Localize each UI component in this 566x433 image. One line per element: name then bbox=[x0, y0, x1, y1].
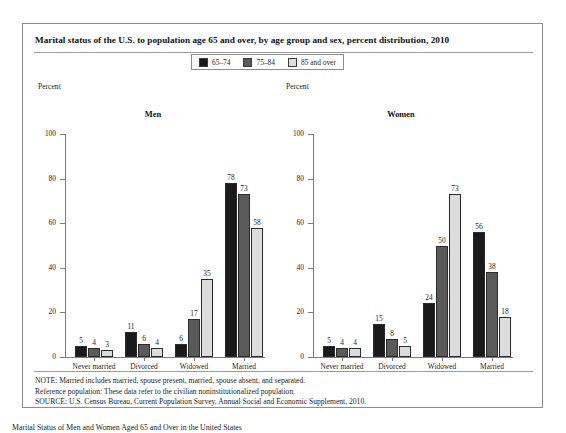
bar-value-label: 5 bbox=[403, 336, 407, 345]
bar[interactable]: 6 bbox=[138, 344, 150, 357]
y-axis-title: Percent bbox=[286, 82, 309, 91]
x-axis-tick bbox=[194, 357, 195, 361]
x-axis-tick bbox=[144, 357, 145, 361]
bar-group-bars: 543 bbox=[72, 134, 116, 357]
bar[interactable]: 58 bbox=[251, 228, 263, 357]
bar[interactable]: 38 bbox=[486, 272, 498, 357]
bar-value-label: 11 bbox=[127, 322, 134, 331]
bar-group: 245073 bbox=[420, 134, 464, 357]
bar[interactable]: 5 bbox=[399, 346, 411, 357]
panel-title: Men bbox=[33, 110, 273, 119]
y-axis-tick-label: 80 bbox=[281, 174, 304, 183]
x-axis-line bbox=[313, 357, 513, 358]
bar-group-bars: 563818 bbox=[470, 134, 514, 357]
y-axis-tick bbox=[308, 357, 314, 358]
bar[interactable]: 17 bbox=[188, 319, 200, 357]
bar-value-label: 78 bbox=[227, 173, 234, 182]
bar-value-label: 6 bbox=[179, 334, 183, 343]
bar-value-label: 56 bbox=[475, 222, 482, 231]
bar-value-label: 38 bbox=[488, 262, 495, 271]
bar-value-label: 50 bbox=[438, 236, 445, 245]
bar[interactable]: 50 bbox=[436, 246, 448, 358]
legend-item-label: 75–84 bbox=[256, 58, 274, 67]
bar-value-label: 4 bbox=[155, 338, 159, 347]
bar-value-label: 5 bbox=[327, 336, 331, 345]
bar[interactable]: 73 bbox=[238, 194, 250, 357]
title-divider bbox=[34, 52, 533, 53]
legend-item-label: 65–74 bbox=[212, 58, 230, 67]
bar-group-bars: 245073 bbox=[420, 134, 464, 357]
bar-group: 787358 bbox=[222, 134, 266, 357]
bar-group-bars: 1164 bbox=[122, 134, 166, 357]
bar[interactable]: 15 bbox=[373, 324, 385, 357]
chart-legend: 65–7475–8485 and over bbox=[191, 54, 344, 70]
y-axis-title: Percent bbox=[38, 82, 61, 91]
bar[interactable]: 4 bbox=[151, 348, 163, 357]
bar[interactable]: 78 bbox=[225, 183, 237, 357]
bar[interactable]: 8 bbox=[386, 339, 398, 357]
bar[interactable]: 18 bbox=[499, 317, 511, 357]
plot-area: 543116461735787358 bbox=[66, 134, 265, 357]
bar-value-label: 17 bbox=[190, 309, 197, 318]
legend-item-label: 85 and over bbox=[301, 58, 336, 67]
y-axis-tick-label: 40 bbox=[281, 263, 304, 272]
bar[interactable]: 11 bbox=[125, 332, 137, 357]
x-axis-tick bbox=[94, 357, 95, 361]
bar-value-label: 6 bbox=[142, 334, 146, 343]
bar-group-bars: 544 bbox=[320, 134, 364, 357]
y-axis-tick-label: 20 bbox=[281, 307, 304, 316]
bar-value-label: 24 bbox=[425, 293, 432, 302]
x-axis-tick bbox=[442, 357, 443, 361]
panel-men: PercentMen020406080100543116461735787358… bbox=[33, 82, 273, 362]
bar-value-label: 4 bbox=[353, 338, 357, 347]
bar-group-bars: 787358 bbox=[222, 134, 266, 357]
y-axis-tick-label: 100 bbox=[33, 129, 56, 138]
bar-value-label: 4 bbox=[340, 338, 344, 347]
footnote-divider bbox=[34, 371, 533, 372]
x-axis-line bbox=[65, 357, 265, 358]
bar-value-label: 73 bbox=[240, 184, 247, 193]
bar-value-label: 73 bbox=[451, 184, 458, 193]
bar-value-label: 5 bbox=[79, 336, 83, 345]
bar[interactable]: 4 bbox=[336, 348, 348, 357]
y-axis-tick-label: 40 bbox=[33, 263, 56, 272]
legend-swatch-icon bbox=[243, 58, 252, 67]
y-axis-tick-label: 0 bbox=[33, 352, 56, 361]
bar-value-label: 18 bbox=[501, 307, 508, 316]
bar-value-label: 8 bbox=[390, 329, 394, 338]
bar[interactable]: 5 bbox=[75, 346, 87, 357]
bar[interactable]: 3 bbox=[101, 350, 113, 357]
bar-group: 544 bbox=[320, 134, 364, 357]
x-axis-tick bbox=[244, 357, 245, 361]
y-axis-tick-label: 80 bbox=[33, 174, 56, 183]
bar[interactable]: 4 bbox=[88, 348, 100, 357]
bar-group: 61735 bbox=[172, 134, 216, 357]
bar-group: 543 bbox=[72, 134, 116, 357]
bar[interactable]: 56 bbox=[473, 232, 485, 357]
bar[interactable]: 6 bbox=[175, 344, 187, 357]
bar-group: 1585 bbox=[370, 134, 414, 357]
bar-group-bars: 1585 bbox=[370, 134, 414, 357]
footnote-line: NOTE: Married includes married, spouse p… bbox=[35, 376, 530, 387]
x-axis-tick bbox=[392, 357, 393, 361]
bar-value-label: 58 bbox=[253, 218, 260, 227]
bar[interactable]: 5 bbox=[323, 346, 335, 357]
panel-women: PercentWomen0204060801005441585245073563… bbox=[281, 82, 521, 362]
legend-item[interactable]: 65–74 bbox=[199, 58, 230, 67]
y-axis-tick-label: 60 bbox=[281, 218, 304, 227]
x-axis-category-label: Married bbox=[214, 362, 274, 371]
bar[interactable]: 24 bbox=[423, 303, 435, 357]
legend-item[interactable]: 75–84 bbox=[243, 58, 274, 67]
bar[interactable]: 4 bbox=[349, 348, 361, 357]
y-axis-tick bbox=[60, 357, 66, 358]
legend-item[interactable]: 85 and over bbox=[288, 58, 336, 67]
bar-value-label: 15 bbox=[375, 314, 382, 323]
footnotes: NOTE: Married includes married, spouse p… bbox=[35, 376, 530, 408]
y-axis-tick-label: 60 bbox=[33, 218, 56, 227]
footnote-line: SOURCE: U.S. Census Bureau, Current Popu… bbox=[35, 397, 530, 408]
bar-group-bars: 61735 bbox=[172, 134, 216, 357]
bar[interactable]: 35 bbox=[201, 279, 213, 357]
chart-title: Marital status of the U.S. to population… bbox=[35, 34, 532, 46]
panel-title: Women bbox=[281, 110, 521, 119]
bar[interactable]: 73 bbox=[449, 194, 461, 357]
